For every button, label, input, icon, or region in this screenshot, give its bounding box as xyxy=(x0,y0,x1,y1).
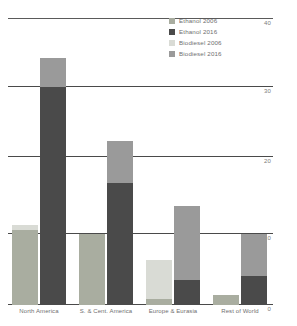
segment-biodiesel-2016 xyxy=(107,141,133,184)
x-label-europe-and-eurasia: Europe & Eurasia xyxy=(141,308,205,314)
x-label-north-america: North America xyxy=(12,308,66,314)
bar-s-and-cent-america-2006[interactable] xyxy=(79,234,105,306)
bars-layer xyxy=(8,18,273,305)
segment-ethanol-2016 xyxy=(241,276,267,305)
x-axis-labels: North America S. & Cent. America Europe … xyxy=(8,308,273,322)
bar-rest-of-world-2006[interactable] xyxy=(213,295,239,305)
legend-item-biodiesel-2016[interactable]: Biodiesel 2016 xyxy=(169,48,265,59)
segment-biodiesel-2016 xyxy=(40,58,66,87)
bar-europe-and-eurasia-2016[interactable] xyxy=(174,206,200,305)
chart-legend: Ethanol 2006 Ethanol 2016 Biodiesel 2006… xyxy=(169,15,265,59)
segment-ethanol-2006 xyxy=(146,299,172,305)
segment-biodiesel-2016 xyxy=(241,234,267,277)
segment-biodiesel-2006 xyxy=(12,225,38,230)
segment-biodiesel-2016 xyxy=(174,206,200,280)
x-label-rest-of-world: Rest of World xyxy=(211,308,269,314)
segment-ethanol-2006 xyxy=(12,230,38,305)
bar-europe-and-eurasia-2006[interactable] xyxy=(146,260,172,305)
bar-north-america-2016[interactable] xyxy=(40,58,66,305)
segment-ethanol-2016 xyxy=(174,280,200,305)
legend-label-ethanol-2006: Ethanol 2006 xyxy=(179,17,217,25)
bar-group-north-america xyxy=(12,18,66,305)
legend-swatch-biodiesel-2016 xyxy=(169,51,175,57)
legend-label-biodiesel-2006: Biodiesel 2006 xyxy=(179,39,222,47)
bar-group-rest-of-world xyxy=(213,18,267,305)
segment-biodiesel-2006 xyxy=(146,260,172,299)
bar-north-america-2006[interactable] xyxy=(12,225,38,305)
legend-label-ethanol-2016: Ethanol 2016 xyxy=(179,28,217,36)
segment-ethanol-2006 xyxy=(213,295,239,305)
bar-group-s-and-cent-america xyxy=(79,18,133,305)
legend-label-biodiesel-2016: Biodiesel 2016 xyxy=(179,50,222,58)
bar-group-europe-and-eurasia xyxy=(146,18,200,305)
chart-container: 40 30 20 10 0 xyxy=(0,0,297,326)
segment-ethanol-2016 xyxy=(107,183,133,305)
legend-item-ethanol-2006[interactable]: Ethanol 2006 xyxy=(169,15,265,26)
bar-s-and-cent-america-2016[interactable] xyxy=(107,141,133,305)
x-label-s-and-cent-america: S. & Cent. America xyxy=(72,308,140,314)
legend-swatch-biodiesel-2006 xyxy=(169,40,175,46)
legend-item-biodiesel-2006[interactable]: Biodiesel 2006 xyxy=(169,37,265,48)
legend-swatch-ethanol-2006 xyxy=(169,18,175,24)
legend-swatch-ethanol-2016 xyxy=(169,29,175,35)
segment-ethanol-2016 xyxy=(40,87,66,305)
segment-ethanol-2006 xyxy=(79,234,105,306)
bar-rest-of-world-2016[interactable] xyxy=(241,234,267,306)
legend-item-ethanol-2016[interactable]: Ethanol 2016 xyxy=(169,26,265,37)
